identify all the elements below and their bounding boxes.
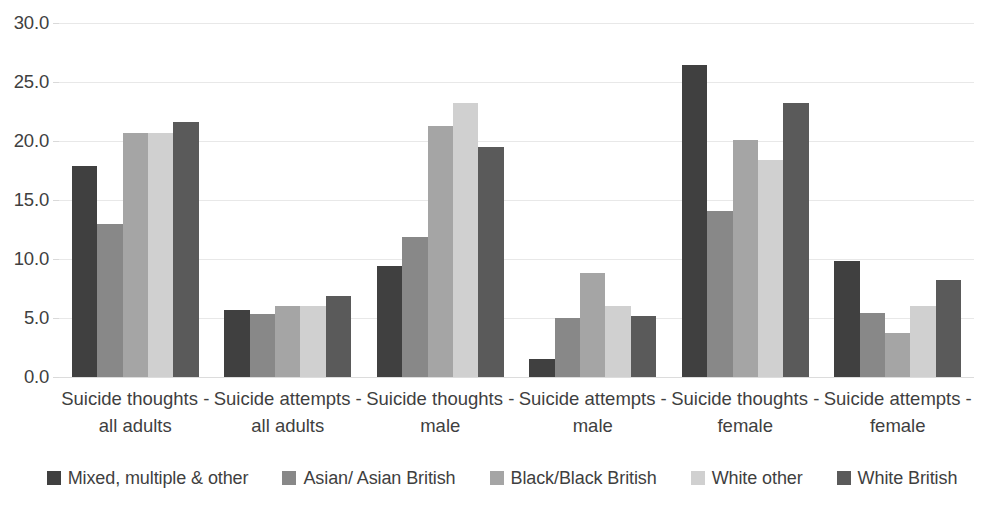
x-axis-category-label-line: all adults <box>212 412 365 439</box>
legend-item[interactable]: White British <box>837 468 958 489</box>
bar[interactable] <box>682 65 707 377</box>
bar[interactable] <box>300 306 325 377</box>
legend-label: Mixed, multiple & other <box>68 468 249 489</box>
x-axis-category-label-line: all adults <box>59 412 212 439</box>
legend-swatch-icon <box>282 471 296 485</box>
x-axis-category-label-line: female <box>669 412 822 439</box>
bar[interactable] <box>326 296 351 377</box>
y-axis-tick-label: 0.0 <box>24 366 49 388</box>
bar[interactable] <box>529 359 554 377</box>
chart-legend: Mixed, multiple & otherAsian/ Asian Brit… <box>0 462 1004 494</box>
legend-item[interactable]: Black/Black British <box>490 468 657 489</box>
bar[interactable] <box>377 266 402 377</box>
bar[interactable] <box>834 261 859 377</box>
bar[interactable] <box>250 314 275 377</box>
x-axis-category-labels: Suicide thoughts -all adultsSuicide atte… <box>59 385 974 457</box>
y-axis-tick-label: 15.0 <box>14 189 49 211</box>
x-axis-category-label: Suicide attempts -female <box>822 385 975 439</box>
bar[interactable] <box>733 140 758 377</box>
legend-swatch-icon <box>47 471 61 485</box>
legend-label: White British <box>858 468 958 489</box>
x-axis-category-label: Suicide attempts -male <box>517 385 670 439</box>
bar-group <box>517 0 670 377</box>
x-axis-category-label: Suicide thoughts -male <box>364 385 517 439</box>
bar-group <box>364 0 517 377</box>
bar[interactable] <box>275 306 300 377</box>
bar[interactable] <box>224 310 249 377</box>
legend-label: Black/Black British <box>511 468 657 489</box>
bar[interactable] <box>885 333 910 377</box>
y-axis: 30.025.020.015.010.05.00.0 <box>0 0 55 390</box>
y-axis-tick-label: 30.0 <box>14 12 49 34</box>
bar[interactable] <box>173 122 198 377</box>
bar[interactable] <box>631 316 656 377</box>
bar[interactable] <box>758 160 783 377</box>
bar[interactable] <box>860 313 885 377</box>
x-axis-category-label-line: Suicide thoughts - <box>669 385 822 412</box>
x-axis-category-label: Suicide thoughts -all adults <box>59 385 212 439</box>
bar[interactable] <box>707 211 732 377</box>
legend-item[interactable]: Mixed, multiple & other <box>47 468 249 489</box>
legend-swatch-icon <box>691 471 705 485</box>
bar[interactable] <box>402 237 427 377</box>
x-axis-category-label-line: Suicide thoughts - <box>364 385 517 412</box>
x-axis-category-label-line: Suicide attempts - <box>822 385 975 412</box>
x-axis-category-label: Suicide thoughts -female <box>669 385 822 439</box>
y-axis-tick-label: 10.0 <box>14 248 49 270</box>
bar-group <box>59 0 212 377</box>
bar-group <box>669 0 822 377</box>
bar[interactable] <box>910 306 935 377</box>
legend-label: Asian/ Asian British <box>303 468 455 489</box>
bar[interactable] <box>97 224 122 377</box>
bar[interactable] <box>605 306 630 377</box>
y-axis-tick-label: 25.0 <box>14 71 49 93</box>
legend-swatch-icon <box>490 471 504 485</box>
bar-chart: 30.025.020.015.010.05.00.0 Suicide thoug… <box>0 0 1004 507</box>
x-axis-category-label: Suicide attempts -all adults <box>212 385 365 439</box>
x-axis-category-label-line: male <box>517 412 670 439</box>
gridline <box>59 377 974 378</box>
bar[interactable] <box>555 318 580 377</box>
bar-group <box>822 0 975 377</box>
plot-area: 30.025.020.015.010.05.00.0 <box>0 0 1004 390</box>
y-axis-tick-label: 5.0 <box>24 307 49 329</box>
bar[interactable] <box>428 126 453 377</box>
bar[interactable] <box>580 273 605 377</box>
bars-layer <box>59 0 974 377</box>
x-axis-category-label-line: Suicide attempts - <box>212 385 365 412</box>
bar[interactable] <box>936 280 961 377</box>
y-axis-tick-mark <box>53 377 59 378</box>
bar[interactable] <box>72 166 97 377</box>
bar[interactable] <box>783 103 808 377</box>
x-axis-category-label-line: female <box>822 412 975 439</box>
x-axis-category-label-line: Suicide thoughts - <box>59 385 212 412</box>
legend-swatch-icon <box>837 471 851 485</box>
x-axis-category-label-line: Suicide attempts - <box>517 385 670 412</box>
bar-group <box>212 0 365 377</box>
legend-item[interactable]: Asian/ Asian British <box>282 468 455 489</box>
bar[interactable] <box>478 147 503 377</box>
bar[interactable] <box>148 133 173 377</box>
legend-item[interactable]: White other <box>691 468 803 489</box>
bar[interactable] <box>453 103 478 377</box>
bar[interactable] <box>123 133 148 377</box>
y-axis-tick-label: 20.0 <box>14 130 49 152</box>
legend-label: White other <box>712 468 803 489</box>
x-axis-category-label-line: male <box>364 412 517 439</box>
